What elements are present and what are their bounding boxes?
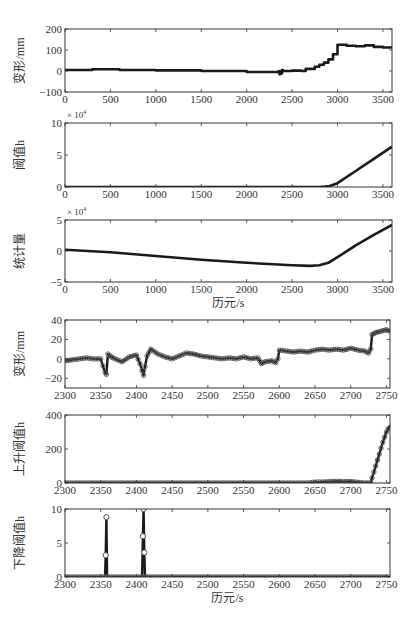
x-tick-label: 2000 (236, 188, 259, 200)
data-series (65, 45, 392, 74)
y-axis-label: 变形/mm (12, 330, 27, 377)
y-tick-label: 20 (51, 333, 63, 345)
y-axis-label: 变形/mm (12, 37, 27, 84)
x-axis-label: 历元/s (212, 296, 244, 310)
x-tick-label: 2400 (125, 484, 148, 496)
x-tick-label: 1000 (145, 188, 168, 200)
x-tick-label: 2650 (304, 389, 327, 401)
x-tick-label: 2700 (340, 578, 363, 590)
x-tick-label: 2500 (281, 188, 304, 200)
data-series (63, 328, 391, 378)
y-tick-label: 0 (57, 245, 63, 257)
axes-box (65, 415, 390, 483)
x-tick-label: 2750 (375, 389, 398, 401)
x-tick-label: 2500 (197, 578, 220, 590)
y-tick-label: 10 (51, 117, 63, 129)
x-tick-label: 2450 (161, 484, 184, 496)
x-tick-label: 0 (62, 283, 68, 295)
subplot-6: 2300235024002450250025502600265027002750… (12, 503, 398, 605)
x-tick-label: 3500 (372, 93, 395, 105)
subplot-1: 0500100015002000250030003500−1000100200变… (12, 23, 394, 105)
x-tick-label: 1500 (190, 283, 213, 295)
figure: 0500100015002000250030003500−1000100200变… (0, 0, 419, 627)
x-tick-label: 2700 (340, 389, 363, 401)
axis-exponent: × 104 (67, 206, 86, 217)
x-tick-label: 3000 (327, 283, 350, 295)
x-tick-label: 0 (62, 93, 68, 105)
x-tick-label: 500 (102, 93, 119, 105)
y-tick-label: 0 (57, 571, 63, 583)
subplot-3: 0500100015002000250030003500−505× 104统计量… (13, 206, 394, 310)
markers (63, 328, 391, 378)
x-tick-label: 2550 (233, 578, 256, 590)
x-tick-label: 1000 (145, 283, 168, 295)
x-tick-label: 2550 (233, 484, 256, 496)
x-tick-label: 2500 (281, 283, 304, 295)
y-tick-label: 5 (57, 537, 63, 549)
y-tick-label: 5 (57, 149, 63, 161)
subplot-5: 2300235024002450250025502600265027002750… (12, 409, 398, 496)
x-tick-label: 2000 (236, 283, 259, 295)
x-tick-label: 3000 (327, 93, 350, 105)
x-tick-label: 2400 (125, 389, 148, 401)
x-tick-label: 3000 (327, 188, 350, 200)
axes-box (65, 29, 392, 92)
axes-box (65, 220, 392, 282)
y-axis-label: 下降阈值h (12, 516, 27, 570)
x-tick-label: 3500 (372, 188, 395, 200)
x-tick-label: 2650 (304, 484, 327, 496)
data-series (63, 425, 391, 485)
x-tick-label: 2600 (268, 484, 291, 496)
x-tick-label: 2650 (304, 578, 327, 590)
axis-exponent: × 104 (67, 109, 86, 120)
y-tick-label: 200 (46, 443, 63, 455)
y-tick-label: 0 (57, 477, 63, 489)
x-tick-label: 2500 (281, 93, 304, 105)
x-tick-label: 2600 (268, 389, 291, 401)
x-tick-label: 1500 (190, 188, 213, 200)
y-tick-label: 10 (51, 503, 63, 515)
x-tick-label: 2600 (268, 578, 291, 590)
x-tick-label: 2400 (125, 578, 148, 590)
x-tick-label: 2000 (236, 93, 259, 105)
x-tick-label: 500 (102, 283, 119, 295)
subplot-2: 05001000150020002500300035000510× 104阈值h (12, 109, 394, 200)
x-tick-label: 2500 (197, 389, 220, 401)
x-tick-label: 2500 (197, 484, 220, 496)
y-tick-label: −20 (45, 372, 63, 384)
x-tick-label: 2350 (90, 578, 113, 590)
y-axis-label: 统计量 (13, 233, 27, 269)
markers (63, 506, 390, 579)
x-tick-label: 2350 (90, 389, 113, 401)
x-tick-label: 2750 (375, 484, 398, 496)
x-tick-label: 2450 (161, 578, 184, 590)
x-tick-label: 0 (62, 188, 68, 200)
y-tick-label: 0 (57, 65, 63, 77)
subplot-4: 2300235024002450250025502600265027002750… (12, 314, 398, 401)
chart-figure: 0500100015002000250030003500−1000100200变… (0, 0, 419, 627)
y-axis-label: 阈值h (12, 140, 27, 170)
x-tick-label: 2350 (90, 484, 113, 496)
y-tick-label: 200 (46, 23, 63, 35)
y-tick-label: 100 (46, 44, 63, 56)
y-tick-label: −100 (39, 86, 62, 98)
axes-box (65, 123, 392, 187)
x-tick-label: 2700 (340, 484, 363, 496)
x-tick-label: 1500 (190, 93, 213, 105)
x-tick-label: 2300 (54, 389, 77, 401)
y-tick-label: 40 (51, 314, 63, 326)
markers (63, 426, 391, 485)
x-tick-label: 2450 (161, 389, 184, 401)
x-tick-label: 2550 (233, 389, 256, 401)
data-series (65, 147, 392, 187)
data-series (65, 225, 392, 266)
x-tick-label: 500 (102, 188, 119, 200)
x-axis-label: 历元/s (211, 591, 243, 605)
y-tick-label: 0 (57, 181, 63, 193)
y-tick-label: 400 (46, 409, 63, 421)
y-tick-label: 0 (57, 353, 63, 365)
x-tick-label: 3500 (372, 283, 395, 295)
data-series (63, 506, 390, 579)
x-tick-label: 2750 (375, 578, 398, 590)
axes-box (65, 509, 390, 577)
